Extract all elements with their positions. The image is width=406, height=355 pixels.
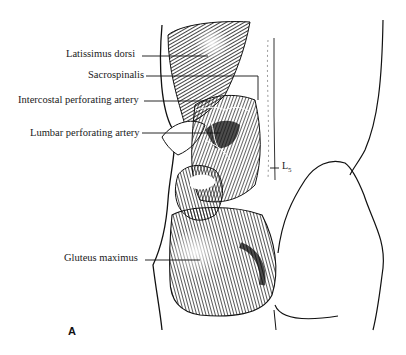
panel-label: A [68, 325, 76, 337]
label-lumbar-perforating-artery: Lumbar perforating artery [30, 127, 140, 139]
label-vertebra-l5: L5 [282, 160, 292, 174]
label-intercostal-perforating-artery: Intercostal perforating artery [18, 94, 139, 106]
anatomy-illustration [0, 0, 406, 355]
label-gluteus-maximus: Gluteus maximus [64, 252, 138, 264]
label-sacrospinalis: Sacrospinalis [88, 69, 144, 81]
label-latissimus-dorsi: Latissimus dorsi [66, 48, 135, 60]
anatomical-figure: Latissimus dorsi Sacrospinalis Intercost… [0, 0, 406, 355]
vertebra-sub: 5 [288, 166, 292, 174]
